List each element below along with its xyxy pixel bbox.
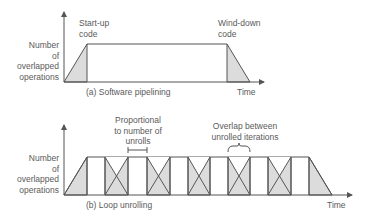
chart-loop-unrolling — [64, 125, 352, 195]
startup-region — [64, 44, 87, 82]
overlap-brace — [228, 143, 250, 152]
unroll-width-marker — [128, 147, 147, 153]
chart-software-pipelining — [64, 12, 264, 82]
winddown-region — [227, 44, 250, 82]
diagram-graphics — [0, 0, 370, 222]
